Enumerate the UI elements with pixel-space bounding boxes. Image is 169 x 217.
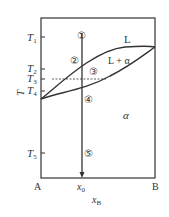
point-4: ④ xyxy=(84,94,93,105)
liquidus-curve xyxy=(41,46,155,99)
label-t1: T1 xyxy=(27,31,37,45)
label-x0: x0 xyxy=(76,181,85,194)
label-b: B xyxy=(152,181,159,192)
solidus-curve xyxy=(41,47,155,99)
diagram-frame xyxy=(41,18,155,178)
label-a: A xyxy=(34,181,42,192)
phase-diagram: T1 T2 T3 T4 T5 T L L + α α ① ② ③ ④ ⑤ A B… xyxy=(0,0,169,217)
point-1: ① xyxy=(77,30,86,41)
point-3: ③ xyxy=(89,66,98,77)
label-t5: T5 xyxy=(27,147,37,161)
point-5: ⑤ xyxy=(84,148,93,159)
x-axis-label: xB xyxy=(91,194,101,207)
y-axis-label: T xyxy=(14,89,26,96)
region-liquid: L xyxy=(124,33,131,45)
point-2: ② xyxy=(70,55,79,66)
label-t4: T4 xyxy=(27,84,37,98)
region-two-phase: L + α xyxy=(108,55,130,66)
arrow-down-icon xyxy=(80,172,85,178)
region-solid: α xyxy=(123,109,129,121)
